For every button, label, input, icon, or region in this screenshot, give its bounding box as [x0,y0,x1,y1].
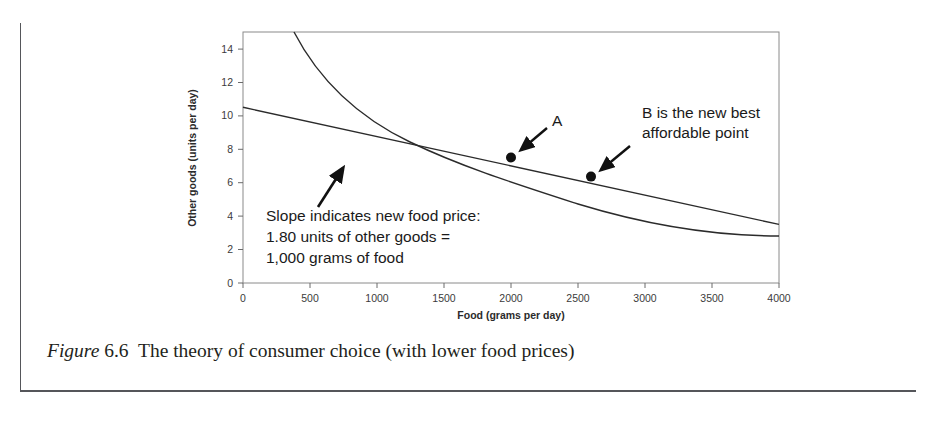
figure-caption-number: 6.6 [104,340,128,361]
chart-plot-area: 0 2 4 6 8 10 12 14 Other goods (units pe… [180,22,820,322]
arrow-to-point-b [601,146,630,170]
x-tick-label: 500 [301,292,319,304]
x-tick-label: 4000 [767,292,791,304]
x-tick-label: 2500 [566,292,590,304]
data-point-a [506,153,516,163]
x-tick-label: 3000 [633,292,657,304]
y-tick-label: 6 [227,176,233,188]
y-tick-label: 4 [227,210,233,222]
data-point-b [586,172,596,182]
y-tick-label: 8 [227,143,233,155]
figure-container: 0 2 4 6 8 10 12 14 Other goods (units pe… [0,0,925,424]
y-axis-ticks [238,49,243,283]
y-axis-title: Other goods (units per day) [186,89,198,227]
slope-annotation-line-1: Slope indicates new food price: [266,207,481,224]
y-tick-label: 10 [221,109,233,121]
slope-annotation-line-3: 1,000 grams of food [266,249,404,266]
y-tick-label: 12 [221,76,233,88]
x-tick-label: 2000 [499,292,523,304]
point-b-annotation: B is the new best affordable point [642,104,761,141]
point-a-label: A [552,112,563,129]
figure-caption-label: Figure [47,340,99,361]
y-tick-label: 2 [227,243,233,255]
x-tick-label: 1500 [432,292,456,304]
slope-annotation-line-2: 1.80 units of other goods = [266,228,450,245]
y-tick-label: 0 [227,277,233,289]
consumer-choice-chart: 0 2 4 6 8 10 12 14 Other goods (units pe… [180,22,820,322]
point-b-annotation-line-1: B is the new best [642,104,761,121]
page-frame-bottom-rule [20,390,916,392]
page-frame-left-rule [20,23,21,391]
point-b-annotation-line-2: affordable point [642,124,749,141]
x-tick-label: 3500 [700,292,724,304]
y-tick-label: 14 [221,43,233,55]
arrow-to-point-a [521,128,547,150]
x-tick-label: 0 [240,292,246,304]
slope-annotation: Slope indicates new food price: 1.80 uni… [266,207,481,266]
x-axis-ticks [243,283,779,288]
arrow-to-budget-line [318,168,343,207]
x-axis-title: Food (grams per day) [457,309,564,321]
y-axis-tick-labels: 0 2 4 6 8 10 12 14 [221,43,233,289]
x-tick-label: 1000 [365,292,389,304]
figure-caption-text: The theory of consumer choice (with lowe… [138,340,574,361]
x-axis-tick-labels: 0 500 1000 1500 2000 2500 3000 3500 4000 [240,292,791,304]
figure-caption: Figure 6.6 The theory of consumer choice… [47,340,847,362]
